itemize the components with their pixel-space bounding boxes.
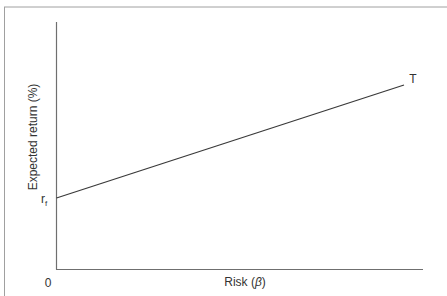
x-axis-label: Risk (β) bbox=[224, 275, 266, 289]
y-axis-label: Expected return (%) bbox=[26, 84, 40, 191]
diagram-frame: T rf 0 Risk (β) Expected return (%) bbox=[0, 0, 447, 296]
origin-label: 0 bbox=[45, 276, 52, 290]
rf-to-t-line bbox=[57, 85, 405, 198]
rf-label: rf bbox=[41, 192, 48, 208]
t-label: T bbox=[409, 72, 417, 86]
sml-diagram: T rf 0 Risk (β) Expected return (%) bbox=[0, 0, 447, 296]
